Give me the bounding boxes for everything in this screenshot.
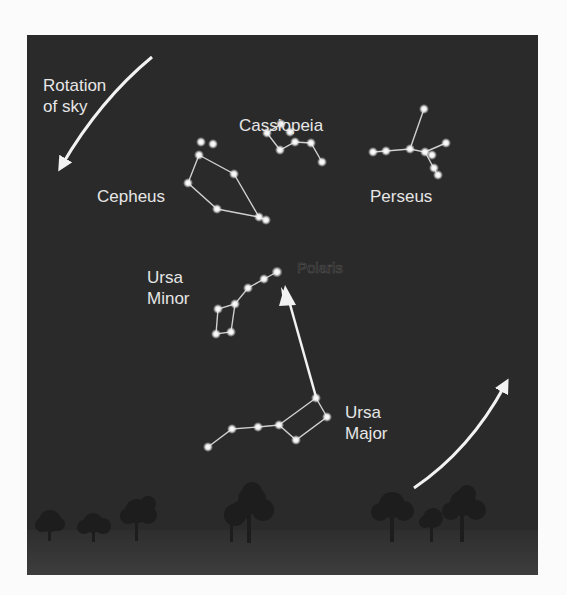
ursa-minor-label: Ursa Minor [147,267,190,309]
rotation-label: Rotation of sky [43,75,106,117]
perseus-stars [368,104,451,180]
ursa-major-label-line-1: Ursa [345,402,388,423]
cepheus-stars [183,137,271,225]
ursa-minor-stars [211,267,283,340]
ursa-major-label: Ursa Major [345,402,388,444]
rotation-label-line-2: of sky [43,96,106,117]
cepheus-label: Cepheus [97,186,165,207]
polaris-label: Polaris [297,259,343,276]
cassiopeia-label: Cassiopeia [239,115,323,136]
pointer-arrow-to-polaris [279,285,316,397]
ursa-major-constellation [208,398,327,447]
ursa-minor-label-line-1: Ursa [147,267,190,288]
ursa-major-label-line-2: Major [345,423,388,444]
ursa-minor-label-line-2: Minor [147,288,190,309]
rotation-label-line-1: Rotation [43,75,106,96]
rotation-arrow-bottom [414,385,505,488]
night-sky-panel: Rotation of sky Cassiopeia Cepheus Perse… [27,35,538,575]
ursa-major-stars [203,393,332,452]
perseus-label: Perseus [370,186,432,207]
cepheus-constellation [188,155,266,220]
